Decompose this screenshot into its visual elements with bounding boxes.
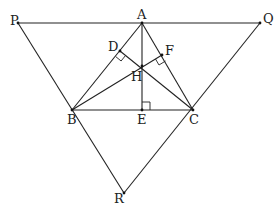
label-b: B (67, 113, 77, 126)
label-h: H (131, 70, 142, 83)
segment-ac (142, 23, 193, 110)
point-h (141, 65, 144, 68)
label-q: Q (263, 12, 274, 25)
point-c (192, 109, 195, 112)
label-d: D (108, 40, 118, 53)
point-e (141, 109, 144, 112)
label-a: A (137, 8, 146, 21)
point-d (119, 50, 122, 53)
geometry-diagram (0, 0, 277, 218)
right-angle-marker-e (142, 102, 150, 110)
label-e: E (137, 113, 147, 126)
point-f (161, 54, 164, 57)
right-angle-marker-d (116, 56, 126, 62)
segment-ab (72, 23, 142, 110)
label-p: P (10, 14, 19, 27)
label-c: C (189, 113, 199, 126)
point-a (141, 22, 144, 25)
point-q (259, 22, 262, 25)
label-f: F (165, 44, 174, 57)
label-r: R (114, 192, 124, 205)
point-b (71, 109, 74, 112)
